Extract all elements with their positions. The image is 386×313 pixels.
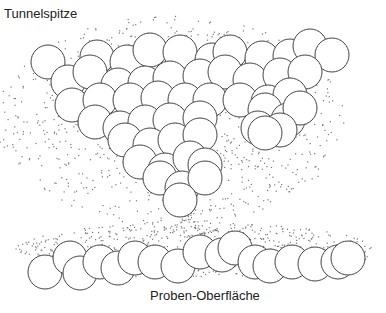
stm-diagram: Tunnelspitze Proben-Oberfläche xyxy=(0,0,386,313)
surface-atom xyxy=(331,241,365,275)
tip-atom xyxy=(163,183,197,217)
atom-illustration xyxy=(0,0,386,313)
tip-atom xyxy=(248,116,282,150)
tip-label: Tunnelspitze xyxy=(4,6,77,21)
surface-label: Proben-Oberfläche xyxy=(150,288,260,303)
tip-atom xyxy=(133,33,167,67)
